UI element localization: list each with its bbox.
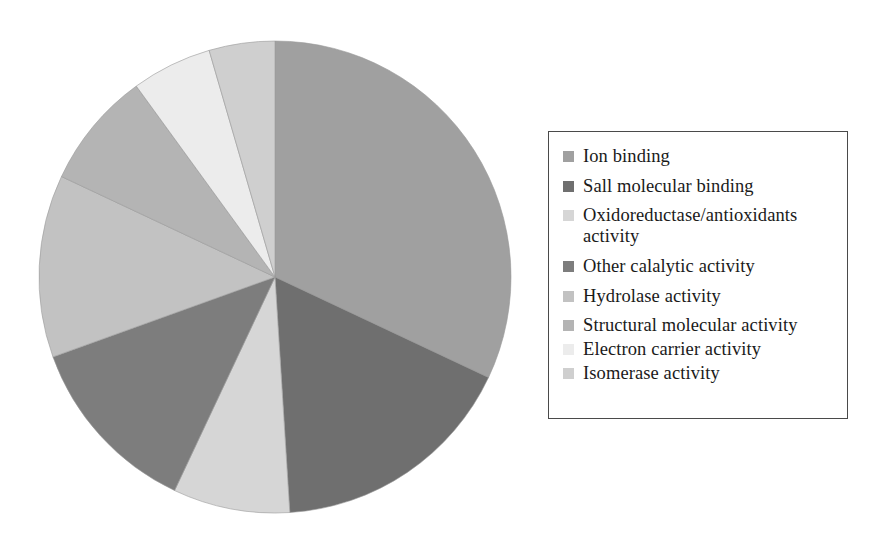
legend-item[interactable]: Ion binding [563, 146, 837, 167]
legend-item[interactable]: Isomerase activity [563, 363, 837, 384]
pie-chart: Ion bindingSall molecular bindingOxidore… [37, 39, 513, 515]
pie-slice-group: Ion bindingSall molecular bindingOxidore… [39, 41, 511, 513]
legend-item[interactable]: Structural molecular activity [563, 315, 837, 336]
legend-item-label: Isomerase activity [583, 363, 720, 384]
legend-item-label: Oxidoreductase/antioxidantsactivity [583, 205, 797, 246]
figure-canvas: Ion bindingSall molecular bindingOxidore… [0, 0, 890, 547]
legend-swatch-icon [563, 181, 574, 192]
legend-item-label: Hydrolase activity [583, 286, 721, 307]
legend-swatch-icon [563, 344, 574, 355]
legend-item[interactable]: Oxidoreductase/antioxidantsactivity [563, 205, 837, 246]
pie-chart-svg: Ion bindingSall molecular bindingOxidore… [37, 39, 513, 515]
legend-item-label: Electron carrier activity [583, 339, 761, 360]
legend-item[interactable]: Other calalytic activity [563, 256, 837, 277]
legend-item[interactable]: Sall molecular binding [563, 176, 837, 197]
legend-item-label: Other calalytic activity [583, 256, 755, 277]
legend-item-label: Structural molecular activity [583, 315, 798, 336]
chart-legend: Ion bindingSall molecular bindingOxidore… [548, 131, 848, 419]
legend-item-label-line2: activity [583, 226, 797, 247]
legend-swatch-icon [563, 320, 574, 331]
legend-swatch-icon [563, 368, 574, 379]
legend-swatch-icon [563, 261, 574, 272]
legend-item[interactable]: Hydrolase activity [563, 286, 837, 307]
legend-swatch-icon [563, 210, 574, 221]
legend-item-label: Sall molecular binding [583, 176, 754, 197]
legend-swatch-icon [563, 151, 574, 162]
legend-item[interactable]: Electron carrier activity [563, 339, 837, 360]
legend-item-label: Ion binding [583, 146, 670, 167]
legend-swatch-icon [563, 291, 574, 302]
legend-item-list: Ion bindingSall molecular bindingOxidore… [563, 146, 837, 383]
